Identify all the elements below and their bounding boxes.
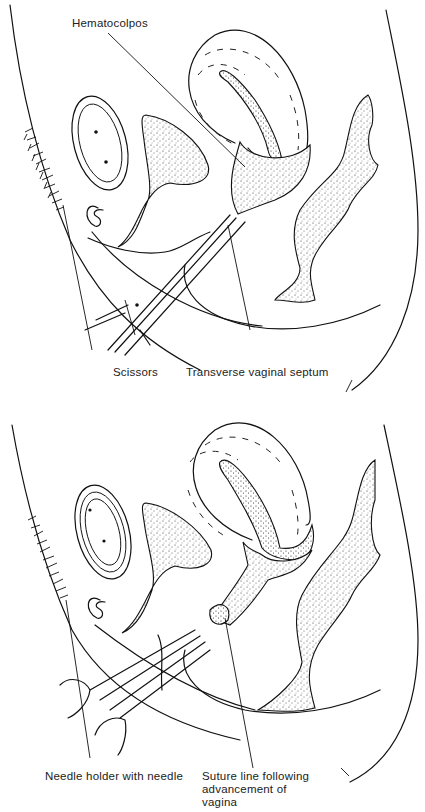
label-hematocolpos: Hematocolpos: [72, 17, 148, 30]
label-transverse-vaginal-septum: Transverse vaginal septum: [186, 366, 329, 379]
needle-holder-instrument: [60, 630, 210, 755]
bottom-panel: Needle holder with needle Suture line fo…: [0, 400, 425, 812]
top-panel: Hematocolpos Scissors Transverse vaginal…: [0, 0, 425, 400]
scissors-instrument: [85, 215, 245, 355]
label-suture-line: Suture line following advancement of vag…: [202, 770, 322, 809]
rectum: [275, 95, 378, 302]
leader-septum: [228, 225, 250, 330]
leader-suture-line: [225, 618, 253, 768]
top-anatomy-drawing: [0, 0, 425, 400]
label-needle-holder-with-needle: Needle holder with needle: [45, 770, 183, 783]
label-scissors: Scissors: [113, 366, 158, 379]
pubic-hair: [28, 516, 68, 598]
bottom-anatomy-drawing: [0, 400, 425, 812]
bladder: [118, 115, 209, 247]
